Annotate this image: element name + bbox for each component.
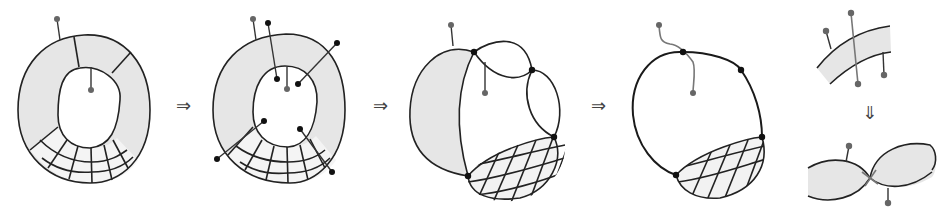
implies-arrow-1: ⇒ — [176, 97, 191, 115]
panel-5-bottom-lobes — [808, 143, 936, 206]
panel-3 — [410, 22, 570, 205]
panel-2 — [213, 16, 345, 183]
implies-arrow-3: ⇒ — [591, 97, 606, 115]
diagram-canvas — [0, 0, 951, 217]
panel-4 — [633, 22, 770, 205]
implies-arrow-2: ⇒ — [373, 97, 388, 115]
implies-down-arrow: ⇓ — [862, 104, 877, 122]
panel-1 — [18, 16, 150, 183]
panel-5-top-band — [817, 10, 891, 87]
